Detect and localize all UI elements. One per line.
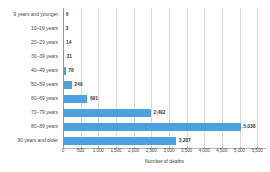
bar-row: 2,492 — [63, 109, 266, 118]
x-tick-label: 5,000 — [234, 149, 245, 154]
x-axis-ticks: 05001,0001,5002,0002,5003,0003,5004,0004… — [63, 149, 266, 158]
x-tick-label: 1,500 — [110, 149, 121, 154]
x-tick-label: 5,500 — [252, 149, 263, 154]
bar-chart: 9 years and younger10–19 years20–29 year… — [0, 0, 270, 172]
category-label: 40–49 years — [31, 68, 58, 73]
bar-row: 5,038 — [63, 123, 266, 132]
bar — [63, 81, 72, 90]
bar — [63, 67, 66, 76]
bar-value-label: 3,207 — [179, 138, 191, 143]
x-tick-label: 3,500 — [181, 149, 192, 154]
x-tick-label: 4,000 — [199, 149, 210, 154]
category-label: 60–69 years — [31, 96, 58, 101]
bar-row: 78 — [63, 67, 266, 76]
x-tick-label: 1,000 — [93, 149, 104, 154]
bar-row: 6 — [63, 11, 266, 20]
bar-row: 249 — [63, 81, 266, 90]
category-label: 70–79 years — [31, 110, 58, 115]
bars: 631431782496912,4925,0383,207 — [63, 8, 266, 148]
bar — [63, 109, 151, 118]
bar — [63, 53, 64, 62]
category-label: 30–39 years — [31, 54, 58, 59]
bar-value-label: 5,038 — [243, 124, 255, 129]
bar-value-label: 31 — [67, 54, 72, 59]
bar-value-label: 14 — [66, 40, 71, 45]
bar — [63, 95, 87, 104]
plot-area: 631431782496912,4925,0383,207 — [63, 8, 266, 148]
x-tick-label: 4,500 — [216, 149, 227, 154]
bar-row: 14 — [63, 39, 266, 48]
bar-row: 3 — [63, 25, 266, 34]
bar-value-label: 78 — [68, 68, 73, 73]
category-label: 20–29 years — [31, 40, 58, 45]
bar-value-label: 691 — [90, 96, 98, 101]
category-label: 80–89 years — [31, 124, 58, 129]
bar — [63, 137, 176, 146]
category-label: 50–59 years — [31, 82, 58, 87]
x-tick-label: 0 — [62, 149, 64, 154]
x-tick-label: 2,500 — [146, 149, 157, 154]
bar-value-label: 6 — [66, 12, 69, 17]
x-axis-title: Number of deaths — [63, 159, 266, 164]
x-tick-label: 500 — [77, 149, 84, 154]
bar — [63, 123, 241, 132]
bar-row: 691 — [63, 95, 266, 104]
category-label: 9 years and younger — [13, 12, 58, 17]
bar-value-label: 249 — [74, 82, 82, 87]
x-tick-label: 3,000 — [163, 149, 174, 154]
x-tick-label: 2,000 — [128, 149, 139, 154]
category-label: 10–19 years — [31, 26, 58, 31]
bar-value-label: 2,492 — [153, 110, 165, 115]
category-axis: 9 years and younger10–19 years20–29 year… — [0, 8, 61, 148]
category-label: 90 years and older — [17, 138, 58, 143]
bar-row: 31 — [63, 53, 266, 62]
bar-value-label: 3 — [66, 26, 69, 31]
bar-row: 3,207 — [63, 137, 266, 146]
